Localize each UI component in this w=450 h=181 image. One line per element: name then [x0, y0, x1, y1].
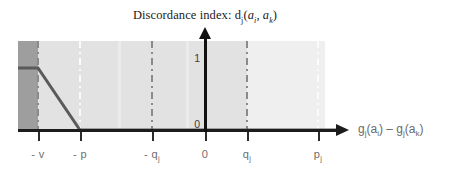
title-close-paren: ) — [273, 8, 277, 22]
x-tick-label-text: 0 — [202, 148, 209, 160]
x-tick-label-text: - p — [73, 148, 87, 160]
x-axis-label: gj(ai) – gj(ak) — [358, 122, 423, 138]
x-tick-minus-p — [80, 132, 82, 141]
discordance-index-figure: Discordance index: dj(ai, ak) - v - p - … — [0, 0, 450, 181]
xlabel-minus: – — [383, 122, 396, 136]
x-tick-label-zero: 0 — [202, 148, 209, 163]
veto-zone-band — [18, 41, 38, 131]
xlabel-g2: g — [396, 122, 403, 136]
y-axis-line — [204, 37, 207, 132]
xlabel-g1: g — [358, 122, 365, 136]
y-tick-label-one: 1 — [194, 52, 200, 64]
title-prefix: Discordance index: d — [133, 8, 241, 22]
x-tick-label-minus-qj: - qj — [144, 148, 160, 163]
x-tick-label-qj: qj — [243, 148, 252, 163]
x-tick-label-minus-v: - v — [31, 148, 44, 163]
guide-line-qj — [246, 41, 248, 131]
x-tick-zero — [205, 132, 207, 141]
no-discordance-band — [247, 41, 325, 131]
x-tick-label-sub: j — [158, 154, 160, 163]
x-axis-line — [18, 129, 343, 132]
guide-line-pj — [317, 41, 319, 131]
x-tick-qj — [247, 132, 249, 141]
x-tick-label-pj: pj — [314, 148, 323, 163]
x-tick-label-text: - v — [31, 148, 44, 160]
partial-discordance-band — [38, 41, 247, 131]
background-streak — [118, 41, 121, 131]
guide-line-minus-v — [37, 41, 39, 131]
x-tick-label-minus-p: - p — [73, 148, 87, 163]
x-axis-arrow — [336, 124, 349, 136]
xlabel-close2: ) — [419, 122, 423, 136]
x-tick-minus-v — [38, 132, 40, 141]
guide-line-minus-p — [79, 41, 81, 131]
background-streak — [186, 41, 189, 131]
x-tick-label-text: - q — [144, 148, 158, 160]
y-tick-label-zero: 0 — [194, 118, 200, 130]
x-tick-label-sub: j — [320, 154, 322, 163]
chart-title: Discordance index: dj(ai, ak) — [0, 8, 410, 25]
x-tick-minus-qj — [152, 132, 154, 141]
y-axis-arrow — [199, 27, 211, 39]
x-tick-pj — [318, 132, 320, 141]
x-tick-label-sub: j — [249, 154, 251, 163]
guide-line-minus-qj — [151, 41, 153, 131]
